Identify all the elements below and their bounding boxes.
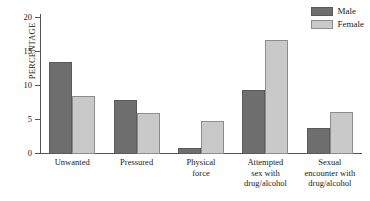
- y-axis-tick-label: 15: [24, 45, 33, 57]
- bar-chart: PERCENTAGE 05101520 UnwantedPressuredPhy…: [0, 0, 370, 201]
- bar-male[interactable]: [307, 128, 330, 154]
- bar-female[interactable]: [137, 113, 160, 154]
- x-axis-label: Unwanted: [40, 157, 104, 189]
- bar-groups: [40, 18, 362, 154]
- bar-female[interactable]: [201, 121, 224, 154]
- x-axis-label: Attemptedsex withdrug/alcohol: [233, 157, 297, 189]
- y-axis-tick-label: 5: [28, 113, 32, 125]
- legend: Male Female: [311, 6, 365, 29]
- bar-group: [233, 18, 297, 154]
- bar-pair: [298, 18, 362, 154]
- legend-label-female: Female: [338, 19, 365, 29]
- bar-pair: [40, 18, 104, 154]
- legend-item-female: Female: [311, 19, 365, 29]
- bar-group: [298, 18, 362, 154]
- bar-group: [104, 18, 168, 154]
- bar-female[interactable]: [265, 40, 288, 154]
- bar-male[interactable]: [49, 62, 72, 154]
- bar-male[interactable]: [242, 90, 265, 154]
- x-axis-label: Physicalforce: [169, 157, 233, 189]
- x-axis-labels: UnwantedPressuredPhysicalforceAttempteds…: [40, 157, 362, 189]
- bar-female[interactable]: [330, 112, 353, 154]
- bar-pair: [104, 18, 168, 154]
- legend-swatch-male-icon: [311, 7, 333, 16]
- y-axis-tick-label: 0: [28, 147, 32, 159]
- bar-group: [169, 18, 233, 154]
- y-axis-tick-label: 20: [24, 11, 33, 23]
- legend-swatch-female-icon: [311, 20, 333, 29]
- x-axis-label: Pressured: [104, 157, 168, 189]
- legend-item-male: Male: [311, 6, 365, 16]
- bar-female[interactable]: [72, 96, 95, 154]
- y-axis-tick-label: 10: [24, 79, 33, 91]
- legend-label-male: Male: [338, 6, 357, 16]
- bar-male[interactable]: [114, 100, 137, 154]
- bar-pair: [233, 18, 297, 154]
- bar-group: [40, 18, 104, 154]
- bar-male[interactable]: [178, 148, 201, 154]
- plot-area: 05101520: [40, 18, 362, 154]
- x-axis-label: Sexualencounter withdrug/alcohol: [298, 157, 362, 189]
- bar-pair: [169, 18, 233, 154]
